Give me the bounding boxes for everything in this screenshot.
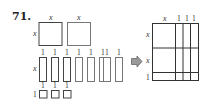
x-squared-tile <box>68 23 91 46</box>
left-label-1: 1 <box>146 73 150 82</box>
top-label-1: 1 <box>177 14 181 23</box>
svg-text:1: 1 <box>53 48 57 57</box>
x-tile: 1 <box>64 48 71 82</box>
svg-text:1: 1 <box>65 48 69 57</box>
svg-text:1: 1 <box>117 48 121 57</box>
svg-text:1: 1 <box>53 81 57 90</box>
square-top-label: x <box>48 13 53 22</box>
x-tile: 1 <box>40 48 47 82</box>
unit-tile: 1 <box>52 81 60 98</box>
top-label-1: 1 <box>192 14 196 23</box>
x-tile: 1 <box>116 48 123 82</box>
problem-number: 71. <box>12 10 31 23</box>
svg-text:1: 1 <box>105 48 109 57</box>
top-label-1: 1 <box>185 14 189 23</box>
result-rectangle: x 1 1 1 x x 1 <box>145 14 199 82</box>
right-arrow-icon <box>132 56 143 67</box>
left-label-x: x <box>145 56 150 65</box>
unit-tile: 1 <box>40 81 48 98</box>
svg-text:1: 1 <box>89 48 93 57</box>
algebra-tiles-diagram: 71. x x x x 1 1 1 1 1 1 1 1 1 1 1 1 x 1 … <box>0 0 207 106</box>
svg-text:1: 1 <box>41 48 45 57</box>
svg-text:1: 1 <box>41 81 45 90</box>
svg-text:1: 1 <box>77 48 81 57</box>
unit-tile: 1 <box>64 81 72 98</box>
rectangle-tiles: x 1 1 1 1 1 1 1 1 <box>32 48 123 82</box>
unit-side-label: 1 <box>33 90 37 99</box>
square-top-label: x <box>76 13 81 22</box>
x-tile: 1 <box>88 48 95 82</box>
x-tile: 1 <box>76 48 83 82</box>
left-label-x: x <box>145 30 150 39</box>
top-label-x: x <box>162 14 167 23</box>
svg-text:1: 1 <box>65 81 69 90</box>
x-squared-tile <box>39 23 62 46</box>
x-tile: 1 <box>104 48 111 82</box>
large-square-tiles: x x x <box>32 13 91 46</box>
unit-tiles: 1 1 1 1 <box>33 81 71 99</box>
x-tile: 1 <box>52 48 59 82</box>
square-side-label: x <box>32 29 37 38</box>
rect-side-label: x <box>32 64 37 73</box>
